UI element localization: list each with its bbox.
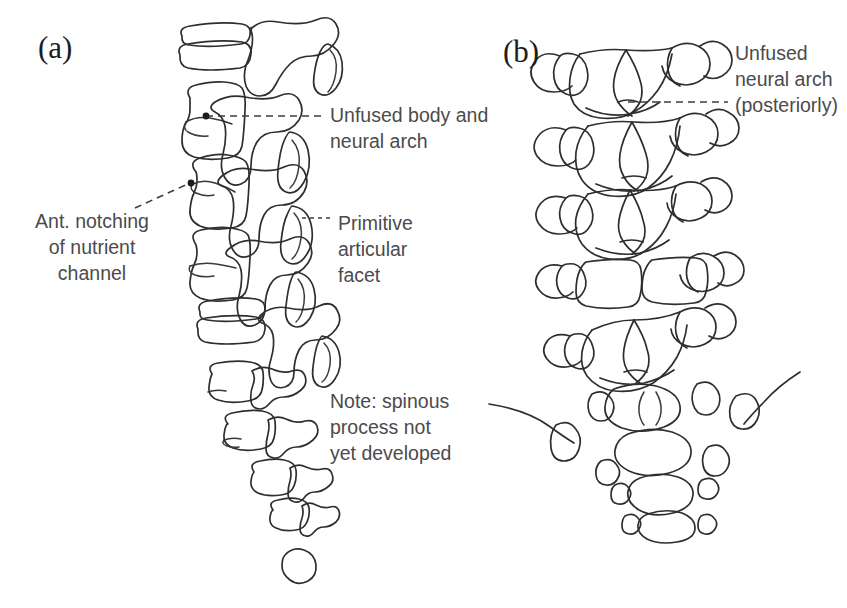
callout-line: Unfused body and — [330, 104, 488, 126]
callout-unfused-neural-arch-posteriorly: Unfused neural arch (posteriorly) — [735, 42, 838, 116]
leader-ant-notching — [135, 183, 190, 208]
panel-b-superior — [489, 41, 800, 543]
vertebra-superior-1 — [531, 41, 732, 118]
callout-line: of nutrient — [49, 236, 136, 258]
callout-line: Note: spinous — [330, 390, 449, 412]
callout-note-spinous-process: Note: spinous process not yet developed — [330, 390, 451, 464]
callout-line: neural arch — [735, 68, 833, 90]
vertebra-superior-3 — [536, 178, 732, 259]
callout-line: yet developed — [330, 442, 451, 464]
vertebra-lateral-7 — [223, 410, 318, 458]
vertebra-lateral-4 — [189, 227, 315, 327]
callout-line: channel — [58, 262, 126, 284]
callout-primitive-articular-facet: Primitive articular facet — [338, 212, 413, 286]
vertebra-lateral-2 — [182, 82, 309, 193]
callout-line: articular — [338, 238, 408, 260]
vertebra-lateral-8 — [251, 459, 333, 502]
vertebra-lateral-6 — [208, 361, 306, 409]
vertebra-lateral-5 — [197, 298, 340, 388]
callout-line: Unfused — [735, 42, 808, 64]
callout-line: process not — [330, 416, 431, 438]
callout-unfused-body-neural-arch: Unfused body and neural arch — [330, 104, 488, 152]
vertebra-superior-5 — [544, 304, 736, 391]
vertebra-superior-2 — [534, 109, 739, 196]
vertebra-lateral-10 — [282, 549, 316, 584]
vertebra-superior-4 — [536, 252, 744, 308]
ossification-centres — [551, 382, 760, 543]
callout-line: facet — [338, 264, 381, 286]
vertebra-lateral-9 — [270, 498, 340, 536]
callout-line: Ant. notching — [35, 210, 149, 232]
callout-line: neural arch — [330, 130, 428, 152]
anatomical-figure: (a) (b) Unfused body and neural arch Pri… — [0, 0, 847, 608]
panel-label-a: (a) — [38, 30, 72, 65]
callout-line: (posteriorly) — [735, 94, 838, 116]
panel-a-lateral — [179, 18, 342, 584]
callout-ant-notching-nutrient-channel: Ant. notching of nutrient channel — [35, 210, 149, 284]
sacrum-development-diagram: (a) (b) Unfused body and neural arch Pri… — [0, 0, 847, 608]
vertebra-lateral-1 — [179, 18, 342, 96]
panel-label-b: (b) — [503, 34, 539, 69]
callout-line: Primitive — [338, 212, 413, 234]
anchor-dot-ant-notching — [188, 180, 195, 187]
anchor-dot-unfused-body-neural-arch — [203, 113, 210, 120]
